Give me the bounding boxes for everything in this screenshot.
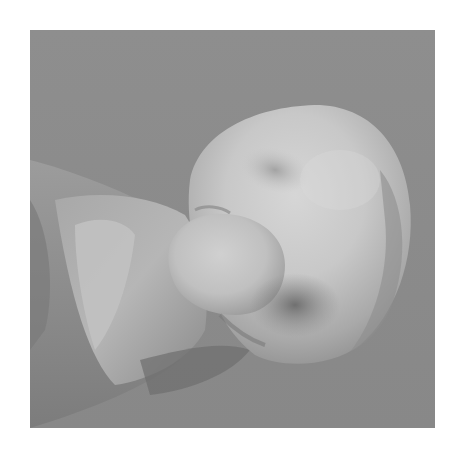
- photograph: Grayscale close-up photograph of a smoot…: [30, 30, 435, 428]
- photo-illustration: [30, 30, 435, 428]
- page: Grayscale close-up photograph of a smoot…: [0, 0, 456, 458]
- shadow-region: [250, 273, 340, 337]
